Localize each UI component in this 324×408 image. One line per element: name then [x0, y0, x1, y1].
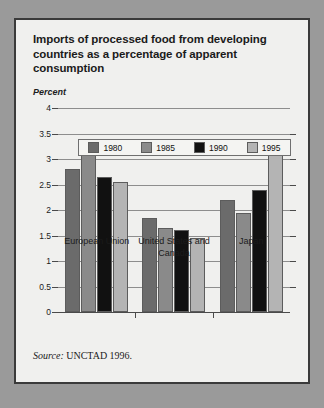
legend-label: 1995: [262, 143, 281, 153]
y-axis-tick-mark-right: [290, 236, 296, 237]
y-axis-tick-mark-right: [290, 134, 296, 135]
chart-card: Imports of processed food from developin…: [14, 18, 310, 384]
legend-item-1995: 1995: [247, 142, 281, 153]
chart-legend: 1980198519901995: [78, 139, 291, 156]
y-axis-tick-label: 1.5: [39, 231, 51, 241]
y-axis-tick-label: 3.5: [39, 129, 51, 139]
y-axis-tick-mark-right: [290, 287, 296, 288]
legend-swatch-icon: [88, 142, 99, 153]
bar-1980: [142, 218, 157, 312]
y-axis-tick-mark-right: [290, 210, 296, 211]
category-label: Japan: [213, 236, 290, 259]
y-axis-tick-label: 1: [46, 256, 51, 266]
bar-1985: [81, 151, 96, 312]
legend-label: 1980: [103, 143, 122, 153]
category-axis-labels: European UnionUnited States and CanadaJa…: [58, 236, 290, 259]
y-axis-tick-mark-right: [290, 159, 296, 160]
page-title: Imports of processed food from developin…: [33, 32, 295, 76]
y-axis-tick-label: 2: [46, 205, 51, 215]
y-axis-tick-mark-right: [290, 185, 296, 186]
source-label: Source:: [33, 350, 64, 361]
bar-1995: [268, 141, 283, 312]
y-axis-tick-label: 4: [46, 103, 51, 113]
category-label: European Union: [58, 236, 135, 259]
legend-swatch-icon: [194, 142, 205, 153]
y-axis-tick-mark-right: [290, 261, 296, 262]
y-axis-tick-label: 3: [46, 154, 51, 164]
legend-label: 1985: [156, 143, 175, 153]
y-axis-unit-label: Percent: [33, 87, 66, 97]
legend-item-1990: 1990: [194, 142, 228, 153]
category-separator-tick: [213, 312, 214, 318]
y-axis-tick-mark: [52, 312, 58, 313]
legend-item-1985: 1985: [141, 142, 175, 153]
source-value: UNCTAD 1996.: [64, 350, 132, 361]
category-separator-tick: [135, 312, 136, 318]
source-note: Source: UNCTAD 1996.: [33, 350, 132, 361]
legend-label: 1990: [209, 143, 228, 153]
gridline: 0: [58, 312, 290, 313]
legend-swatch-icon: [141, 142, 152, 153]
y-axis-tick-label: 0: [46, 307, 51, 317]
legend-item-1980: 1980: [88, 142, 122, 153]
y-axis-tick-label: 2.5: [39, 180, 51, 190]
bar-1985: [236, 213, 251, 312]
legend-swatch-icon: [247, 142, 258, 153]
category-label: United States and Canada: [135, 236, 212, 259]
y-axis-tick-label: 0.5: [39, 282, 51, 292]
